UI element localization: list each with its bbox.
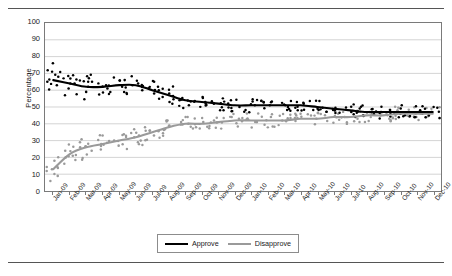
x-tick-Nov-09: Nov-09 (218, 181, 236, 202)
disapprove-line-swatch (228, 243, 251, 245)
x-tick-Sep-10: Sep-10 (384, 181, 402, 202)
x-tick-Feb-09: Feb-09 (69, 182, 87, 203)
x-tick-Mar-09: Mar-09 (85, 182, 103, 203)
x-tick-Mar-10: Mar-10 (284, 182, 302, 203)
x-tick-Jun-10: Jun-10 (334, 182, 352, 202)
legend-label-approve: Approve (192, 239, 219, 248)
legend-item-disapprove: Disapprove (228, 239, 291, 248)
x-tick-Jan-10: Jan-10 (251, 182, 269, 202)
bottom-divider (8, 262, 444, 263)
x-tick-Dec-10: Dec-10 (434, 181, 452, 202)
legend-item-approve: Approve (165, 239, 219, 248)
x-tick-Apr-10: Apr-10 (301, 182, 318, 202)
x-tick-Oct-09: Oct-09 (202, 182, 219, 202)
x-tick-Aug-10: Aug-10 (367, 181, 385, 202)
legend-label-disapprove: Disapprove (255, 239, 291, 248)
approve-line-swatch (165, 243, 188, 245)
x-tick-Jun-09: Jun-09 (135, 182, 153, 202)
chart-figure: Percentage 0102030405060708090100 Jan-09… (0, 0, 452, 276)
x-tick-Apr-09: Apr-09 (102, 182, 119, 202)
chart-legend: Approve Disapprove (157, 234, 299, 253)
x-tick-Feb-10: Feb-10 (268, 182, 286, 203)
x-tick-Dec-09: Dec-09 (235, 181, 253, 202)
x-tick-Jan-09: Jan-09 (52, 182, 70, 202)
x-tick-Jul-10: Jul-10 (351, 184, 367, 202)
x-tick-Nov-10: Nov-10 (417, 181, 435, 202)
x-tick-Aug-09: Aug-09 (168, 181, 186, 202)
x-tick-Oct-10: Oct-10 (401, 182, 418, 202)
x-tick-Sep-09: Sep-09 (185, 181, 203, 202)
x-tick-Jul-09: Jul-09 (152, 184, 168, 202)
